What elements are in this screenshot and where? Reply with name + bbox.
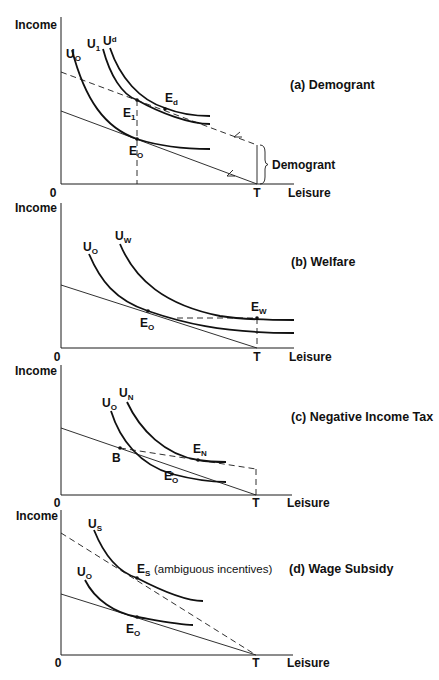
curve-u-o: [89, 254, 294, 333]
label-e-w: EW: [251, 300, 267, 316]
label-e-o: EO: [164, 469, 178, 485]
panel-b-welfare: Income 0 T Leisure UO UW EO EW (b) Welfa…: [15, 201, 355, 364]
point-e-w: [255, 316, 259, 320]
point-e-o: [135, 137, 139, 141]
ambiguous-incentives-note: (ambiguous incentives): [154, 563, 272, 575]
point-e-n: [196, 458, 200, 462]
curve-u-o: [72, 50, 210, 149]
curve-u-1: [103, 49, 210, 124]
x-axis-label: Leisure: [287, 656, 330, 670]
panel-a-demogrant: Income 0 T Leisure Demogrant UO U1 Ud E1…: [15, 17, 376, 200]
point-e-1: [135, 98, 139, 102]
label-u-o: UO: [66, 47, 81, 63]
label-u-o: UO: [102, 396, 117, 412]
y-axis-label: Income: [16, 509, 58, 523]
label-e-d: Ed: [165, 91, 178, 107]
y-axis-label: Income: [15, 201, 57, 215]
label-u-d: Ud: [103, 34, 117, 48]
label-b: B: [112, 451, 121, 465]
label-e-n: EN: [193, 442, 207, 458]
brace-icon: [260, 145, 268, 184]
label-e-o: EO: [129, 144, 143, 160]
original-budget-line: [61, 111, 257, 184]
x-axis-label: Leisure: [289, 350, 332, 364]
point-b: [118, 446, 122, 450]
label-e-1: E1: [123, 106, 136, 122]
panel-c-negative-income-tax: Income 0 T Leisure UO UN B EO EN (c) Neg…: [15, 364, 433, 510]
demogrant-bracket-label: Demogrant: [272, 158, 335, 172]
point-e-o: [135, 615, 139, 619]
label-u-1: U1: [87, 37, 101, 53]
label-u-w: UW: [115, 229, 132, 245]
curve-u-n: [127, 402, 226, 462]
origin-label: 0: [54, 496, 61, 510]
original-budget-line: [61, 594, 256, 655]
point-e-o: [146, 309, 150, 313]
t-label: T: [253, 350, 261, 364]
t-label: T: [252, 496, 260, 510]
label-u-s: US: [88, 517, 103, 533]
income-leisure-diagrams: Income 0 T Leisure Demogrant UO U1 Ud E1…: [0, 0, 439, 680]
point-e-s: [135, 576, 139, 580]
origin-label: 0: [55, 656, 62, 670]
origin-label: 0: [50, 186, 57, 200]
curve-u-w: [120, 244, 294, 320]
panel-d-title: (d) Wage Subsidy: [289, 562, 393, 576]
label-e-s: ES: [137, 562, 151, 578]
label-u-o: UO: [83, 240, 98, 256]
arrow-icon: [234, 132, 242, 137]
y-axis-label: Income: [15, 18, 57, 32]
panel-b-title: (b) Welfare: [291, 255, 355, 269]
demogrant-budget-line: [61, 72, 257, 145]
origin-label: 0: [54, 350, 61, 364]
x-axis-label: Leisure: [287, 496, 330, 510]
subsidized-budget-line: [61, 533, 256, 655]
panel-d-wage-subsidy: Income 0 T Leisure UO US EO ES (ambiguou…: [16, 509, 393, 670]
label-e-o: EO: [126, 622, 140, 638]
x-axis-label: Leisure: [288, 186, 331, 200]
label-u-o: UO: [77, 565, 92, 581]
panel-c-title: (c) Negative Income Tax: [291, 410, 433, 424]
y-axis-label: Income: [15, 364, 57, 378]
point-e-d: [163, 107, 167, 111]
original-budget-line: [61, 428, 256, 495]
t-label: T: [252, 656, 260, 670]
t-label: T: [253, 186, 261, 200]
panel-a-title: (a) Demogrant: [290, 78, 376, 92]
label-u-n: UN: [119, 386, 134, 402]
label-e-o: EO: [140, 316, 154, 332]
curve-u-o: [85, 580, 193, 625]
